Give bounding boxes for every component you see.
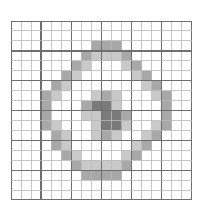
heatmap-cell [132,150,142,160]
heatmap-cell [91,51,101,61]
heatmap-cell [91,170,101,180]
heatmap-cell [81,61,91,71]
heatmap-cell [142,71,152,81]
heatmap-cell [81,111,91,121]
heatmap-cell [112,51,122,61]
figure-canvas [0,0,208,218]
heatmap-cell [112,91,122,101]
heatmap-cell [61,71,71,81]
heatmap-cell [112,111,122,121]
heatmap-cell [71,150,81,160]
heatmap-cell [101,130,111,140]
heatmap-cell [142,81,152,91]
heatmap-cell [152,130,162,140]
heatmap-cell [91,101,101,111]
heatmap-cell [91,91,101,101]
heatmap-cell [101,91,111,101]
heatmap-cell [162,121,172,131]
heatmap-cell [51,130,61,140]
heatmap-cell [61,81,71,91]
heatmap-cell [112,160,122,170]
heatmap-cell [81,170,91,180]
heatmap-cell [61,140,71,150]
heatmap-cell [91,160,101,170]
heatmap-cell [112,41,122,51]
heatmap-cell [101,41,111,51]
heatmap-cell [162,111,172,121]
heatmap-cell [122,160,132,170]
heatmap-cell [51,140,61,150]
heatmap-cell [142,140,152,150]
heatmap-cell [51,121,61,131]
heatmap-cell [112,121,122,131]
pixel-grid-figure [11,21,192,200]
heatmap-cell [71,160,81,170]
heatmap-cell [41,101,51,111]
heatmap-cell [101,160,111,170]
heatmap-cell [112,101,122,111]
heatmap-cell [51,91,61,101]
heatmap-cell [91,130,101,140]
heatmap-cell [71,71,81,81]
heatmap-cell [61,130,71,140]
heatmap-cell [91,121,101,131]
heatmap-cell [101,121,111,131]
heatmap-cell [122,121,132,131]
heatmap-cell [101,111,111,121]
heatmap-cell [152,121,162,131]
heatmap-cell [142,130,152,140]
heatmap-cell [101,170,111,180]
heatmap-cell [81,160,91,170]
heatmap-cell [162,91,172,101]
heatmap-cell [101,101,111,111]
heatmap-cell [81,101,91,111]
heatmap-cell [132,71,142,81]
heatmap-cell [41,111,51,121]
heatmap-cell [112,130,122,140]
heatmap-cell [112,170,122,180]
heatmap-cell [162,101,172,111]
heatmap-cell [81,51,91,61]
heatmap-cell [91,111,101,121]
heatmap-cell [152,81,162,91]
heatmap-cell [122,150,132,160]
heatmap-cell [122,111,132,121]
heatmap-cell [101,51,111,61]
heatmap-cell [71,61,81,71]
grid-svg [11,21,192,200]
heatmap-cell [132,61,142,71]
heatmap-cell [91,41,101,51]
heatmap-cell [41,91,51,101]
grid-lines-layer [11,21,192,200]
heatmap-cell [51,81,61,91]
heatmap-cell [61,150,71,160]
heatmap-cell [122,51,132,61]
heatmap-cell [41,121,51,131]
heatmap-cell [122,61,132,71]
heatmap-cell [132,140,142,150]
heatmap-cell [152,91,162,101]
